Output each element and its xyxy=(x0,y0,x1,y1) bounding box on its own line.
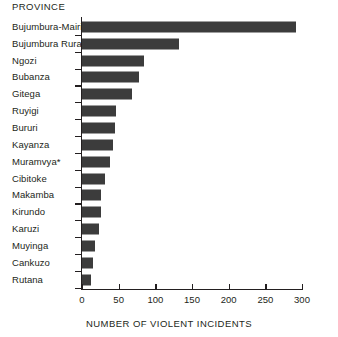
x-tick-label: 250 xyxy=(257,294,273,305)
bar-row: Kirundo xyxy=(0,204,338,221)
category-label-karuzi: Karuzi xyxy=(12,224,39,234)
bar-row: Muyinga xyxy=(0,238,338,255)
bar-row: Kayanza xyxy=(0,136,338,153)
category-label-ngozi: Ngozi xyxy=(12,56,37,66)
bar-row: Karuzi xyxy=(0,221,338,238)
bar-rutana xyxy=(82,274,91,285)
category-label-gitega: Gitega xyxy=(12,89,40,99)
bar-ruyigi xyxy=(82,106,116,117)
y-tick xyxy=(75,288,81,289)
x-tick xyxy=(302,284,303,290)
bar-bubanza xyxy=(82,72,139,83)
bar-row: Makamba xyxy=(0,187,338,204)
bar-row: Ngozi xyxy=(0,52,338,69)
bar-row: Bujumbura-Mairie xyxy=(0,19,338,36)
bar-row: Bujumbura Rural xyxy=(0,35,338,52)
bar-bururi xyxy=(82,122,115,133)
x-tick-label: 150 xyxy=(184,294,200,305)
x-tick-label: 0 xyxy=(79,294,84,305)
bar-ngozi xyxy=(82,55,144,66)
x-tick xyxy=(119,284,120,290)
bar-row: Gitega xyxy=(0,86,338,103)
bar-bujumbura-rural xyxy=(82,38,179,49)
bar-row: Bubanza xyxy=(0,69,338,86)
bar-row: Ruyigi xyxy=(0,103,338,120)
bar-row: Bururi xyxy=(0,120,338,137)
x-tick xyxy=(192,284,193,290)
x-tick-label: 300 xyxy=(294,294,310,305)
category-label-cibitoke: Cibitoke xyxy=(12,174,47,184)
x-tick-label: 200 xyxy=(221,294,237,305)
category-label-bujumbura-mairie: Bujumbura-Mairie xyxy=(12,22,88,32)
bar-kirundo xyxy=(82,207,101,218)
x-tick-label: 50 xyxy=(113,294,124,305)
x-tick xyxy=(229,284,230,290)
bar-karuzi xyxy=(82,224,99,235)
bar-gitega xyxy=(82,89,132,100)
bar-kayanza xyxy=(82,139,113,150)
bar-muyinga xyxy=(82,240,95,251)
category-label-kirundo: Kirundo xyxy=(12,207,45,217)
bar-cankuzo xyxy=(82,257,93,268)
bar-row: Cankuzo xyxy=(0,254,338,271)
category-label-cankuzo: Cankuzo xyxy=(12,258,50,268)
bar-cibitoke xyxy=(82,173,105,184)
category-label-ruyigi: Ruyigi xyxy=(12,106,39,116)
bar-row: Rutana xyxy=(0,271,338,288)
category-label-bujumbura-rural: Bujumbura Rural xyxy=(12,39,84,49)
category-label-makamba: Makamba xyxy=(12,190,54,200)
bar-muramvya xyxy=(82,156,110,167)
bar-row: Muramvya* xyxy=(0,153,338,170)
x-tick xyxy=(82,284,83,290)
category-label-muramvya: Muramvya* xyxy=(12,157,61,167)
bar-bujumbura-mairie xyxy=(82,21,296,32)
x-axis-title: NUMBER OF VIOLENT INCIDENTS xyxy=(0,318,338,329)
category-label-bubanza: Bubanza xyxy=(12,72,50,82)
category-label-kayanza: Kayanza xyxy=(12,140,49,150)
bar-row: Cibitoke xyxy=(0,170,338,187)
plot-area: Bujumbura-MairieBujumbura RuralNgoziBuba… xyxy=(0,0,338,337)
violent-incidents-bar-chart: PROVINCE Bujumbura-MairieBujumbura Rural… xyxy=(0,0,338,337)
x-tick xyxy=(265,284,266,290)
bar-makamba xyxy=(82,190,101,201)
x-tick-label: 100 xyxy=(147,294,163,305)
category-label-rutana: Rutana xyxy=(12,275,43,285)
category-label-muyinga: Muyinga xyxy=(12,241,48,251)
x-tick xyxy=(155,284,156,290)
category-label-bururi: Bururi xyxy=(12,123,38,133)
